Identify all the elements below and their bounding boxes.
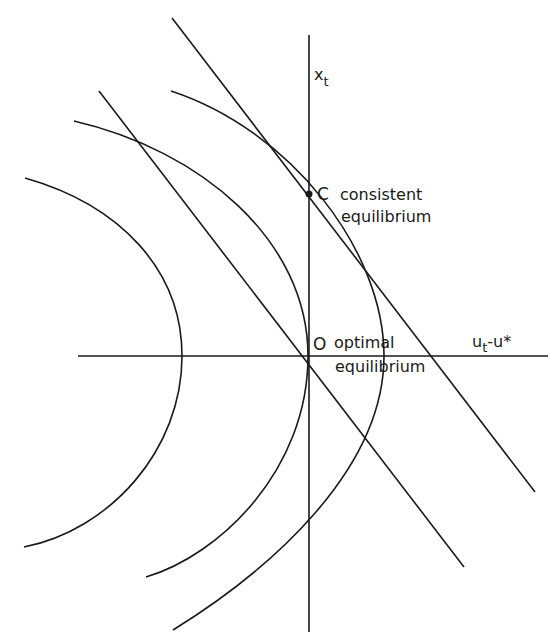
point-o-letter: O <box>313 334 326 354</box>
equilibrium-diagram: xt ut-u* C consistent equilibrium O opti… <box>0 0 558 636</box>
indifference-curve-outer-left <box>24 178 182 547</box>
x-axis-label: ut-u* <box>472 332 511 355</box>
point-o-desc-1: optimal <box>334 333 395 352</box>
point-c-desc-1: consistent <box>340 185 422 204</box>
tangent-line-upper <box>172 18 535 492</box>
y-axis-label: xt <box>314 65 329 89</box>
point-c-marker <box>306 191 313 198</box>
point-c-letter: C <box>317 184 329 204</box>
point-o-desc-2: equilibrium <box>335 357 425 376</box>
indifference-curve-middle <box>74 121 308 577</box>
point-c-desc-2: equilibrium <box>341 207 431 226</box>
